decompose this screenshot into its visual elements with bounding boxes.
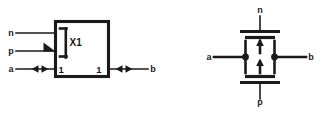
- terminal-a-label: a: [206, 52, 212, 62]
- symbol-block-group: n p X1 a 1 b: [8, 22, 156, 77]
- dynamic-input-triangle-icon: [44, 43, 56, 52]
- transmission-gate-figure: n p X1 a 1 b: [0, 0, 329, 114]
- nmos-bulk-arrow-icon: [256, 39, 264, 54]
- input-p-label: p: [8, 46, 14, 56]
- reference-designator-label: X1: [70, 37, 83, 48]
- port-a-label: a: [8, 64, 14, 74]
- port-b-label: b: [150, 64, 156, 74]
- terminal-b-label: b: [308, 52, 314, 62]
- pmos-bulk-arrow-icon: [256, 59, 264, 74]
- input-n-label: n: [8, 28, 14, 38]
- terminal-a-junction-dot: [242, 54, 249, 61]
- port-a-pin-number: 1: [59, 64, 65, 75]
- figure-root: n p X1 a 1 b: [0, 0, 329, 114]
- terminal-b-junction-dot: [271, 54, 278, 61]
- gate-n-label: n: [257, 5, 263, 15]
- port-b-pin-number: 1: [96, 64, 102, 75]
- schematic-group: n p a b: [206, 5, 314, 107]
